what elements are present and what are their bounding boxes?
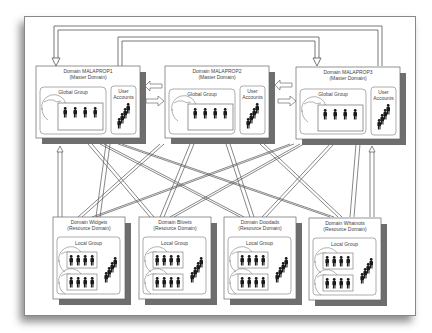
resource-domain-2-group-label: Local Group: [143, 240, 206, 246]
master-domain-1-accounts-label: User Accounts: [111, 88, 136, 100]
resource-domain-4-group-label: Local Group: [313, 241, 376, 247]
master-domain-3-accounts-label: User Accounts: [371, 89, 396, 101]
resource-domain-4-subtitle: (Resource Domain): [309, 226, 381, 232]
master-domain-3-subtitle: (Master Domain): [296, 75, 400, 81]
master-domain-1-group-label: Global Group: [40, 89, 106, 95]
master-domain-2-group-label: Global Group: [169, 91, 235, 97]
resource-domain-3-group-label: Local Group: [228, 240, 291, 246]
master-domain-1-subtitle: (Master Domain): [36, 74, 140, 80]
diagram-canvas: Domain MALAPROP1 (Master Domain) Global …: [0, 0, 432, 333]
connection-arrows: [0, 0, 432, 333]
master-domain-2-accounts-label: User Accounts: [240, 88, 265, 100]
resource-domain-2-subtitle: (Resource Domain): [139, 225, 211, 231]
master-domain-3-group-label: Global Group: [300, 91, 366, 97]
resource-domain-3-subtitle: (Resource Domain): [224, 225, 296, 231]
resource-domain-1-group-label: Local Group: [57, 240, 120, 246]
resource-domain-1-subtitle: (Resource Domain): [53, 225, 125, 231]
master-domain-2-subtitle: (Master Domain): [165, 74, 269, 80]
